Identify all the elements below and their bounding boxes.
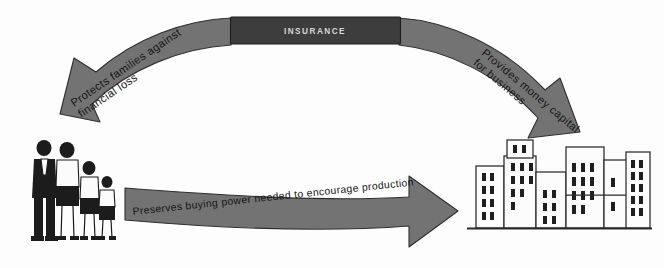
city-buildings-illustration xyxy=(467,140,652,229)
family-figure-mother xyxy=(56,142,79,240)
insurance-node: INSURANCE xyxy=(231,17,401,44)
family-figure-father xyxy=(31,140,58,241)
insurance-flow-diagram: INSURANCE Protects families against fina… xyxy=(0,0,664,268)
label-line-1: Provides money capital xyxy=(480,46,582,134)
family-illustration xyxy=(31,140,116,241)
family-figure-child-older xyxy=(80,161,99,240)
insurance-label: INSURANCE xyxy=(284,27,346,36)
diagram-canvas: INSURANCE Protects families against fina… xyxy=(0,0,664,268)
family-figure-child-younger xyxy=(98,176,116,240)
